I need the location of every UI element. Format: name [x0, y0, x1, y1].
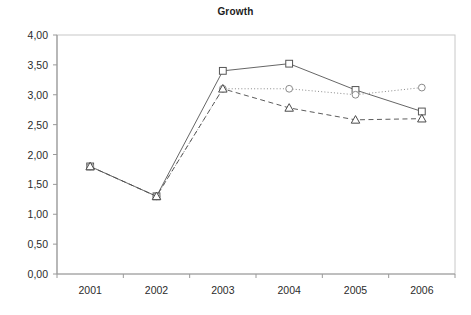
data-point-marker-circle [286, 85, 293, 92]
y-axis-tick-label: 4,00 [8, 29, 48, 41]
y-axis-tick-label: 0,50 [8, 238, 48, 250]
y-axis-tick-label: 1,50 [8, 178, 48, 190]
x-axis-tick-label: 2001 [60, 284, 120, 296]
plot-area [0, 0, 471, 315]
y-axis-tick-label: 0,00 [8, 268, 48, 280]
y-axis-tick-label: 2,00 [8, 149, 48, 161]
y-axis-tick-label: 3,50 [8, 59, 48, 71]
data-point-marker-circle [352, 91, 359, 98]
x-axis-tick-label: 2004 [259, 284, 319, 296]
y-axis-tick-label: 2,50 [8, 119, 48, 131]
series-line-3 [90, 89, 422, 197]
y-axis-tick-label: 3,00 [8, 89, 48, 101]
y-axis-tick-label: 1,00 [8, 208, 48, 220]
x-axis-tick-label: 2002 [127, 284, 187, 296]
growth-line-chart: Growth 0,000,501,001,502,002,503,003,504… [0, 0, 471, 315]
series-line-1 [90, 64, 422, 197]
data-point-marker-square [219, 67, 226, 74]
data-point-marker-circle [418, 84, 425, 91]
x-axis-tick-label: 2003 [193, 284, 253, 296]
series-line-2 [90, 88, 422, 197]
x-axis-tick-label: 2006 [392, 284, 452, 296]
data-point-marker-triangle [418, 114, 427, 122]
x-axis-tick-label: 2005 [326, 284, 386, 296]
data-point-marker-square [286, 60, 293, 67]
